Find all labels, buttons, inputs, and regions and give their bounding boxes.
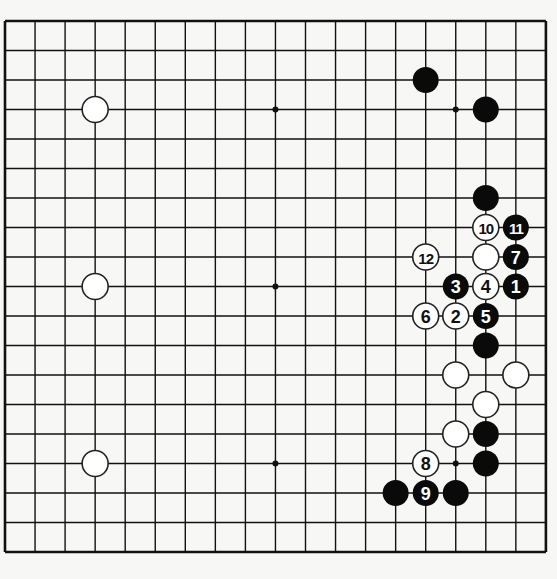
black-stone[interactable] [413,67,439,93]
move-number-label: 8 [421,454,431,474]
black-stone-icon [473,451,499,477]
black-stone-icon [473,333,499,359]
black-stone-icon [383,480,409,506]
black-stone[interactable] [383,480,409,506]
white-stone[interactable]: 2 [443,303,469,329]
white-stone-icon [473,244,499,270]
white-stone-icon [473,392,499,418]
white-stone[interactable]: 4 [473,274,499,300]
move-number-label: 12 [418,250,433,267]
black-stone-icon [443,480,469,506]
white-stone[interactable]: 6 [413,303,439,329]
white-stone[interactable] [473,392,499,418]
white-stone[interactable]: 10 [473,215,499,241]
white-stone-icon [443,362,469,388]
move-number-label: 6 [421,307,431,327]
white-stone-icon [82,97,108,123]
white-stone[interactable] [82,451,108,477]
white-stone[interactable]: 8 [413,451,439,477]
white-stone[interactable] [443,362,469,388]
black-stone[interactable] [443,480,469,506]
move-number-label: 9 [421,484,431,504]
white-stone-icon [82,274,108,300]
white-stone[interactable] [503,362,529,388]
black-stone[interactable] [473,97,499,123]
black-stone[interactable]: 7 [503,244,529,270]
black-stone[interactable] [473,421,499,447]
star-point-icon [453,461,459,467]
star-point-icon [272,284,278,290]
black-stone[interactable]: 3 [443,274,469,300]
white-stone[interactable] [82,97,108,123]
star-point-icon [453,107,459,113]
move-number-label: 1 [511,277,521,297]
black-stone-icon [473,421,499,447]
black-stone[interactable] [473,185,499,211]
star-point-icon [272,461,278,467]
white-stone-icon [82,451,108,477]
move-number-label: 7 [511,248,521,268]
black-stone[interactable]: 11 [503,215,529,241]
move-number-label: 10 [478,220,493,237]
black-stone[interactable] [473,451,499,477]
black-stone[interactable]: 1 [503,274,529,300]
white-stone-icon [503,362,529,388]
white-stone-icon [443,421,469,447]
star-point-icon [272,107,278,113]
move-number-label: 5 [481,307,491,327]
white-stone[interactable] [473,244,499,270]
black-stone-icon [473,97,499,123]
black-stone[interactable] [473,333,499,359]
white-stone[interactable]: 12 [413,244,439,270]
move-number-label: 11 [509,220,524,237]
move-number-label: 2 [451,307,461,327]
move-number-label: 3 [451,277,461,297]
white-stone[interactable] [82,274,108,300]
go-board[interactable]: 101112734162589 [0,0,557,579]
black-stone-icon [413,67,439,93]
black-stone[interactable]: 5 [473,303,499,329]
move-number-label: 4 [481,277,491,297]
white-stone[interactable] [443,421,469,447]
black-stone[interactable]: 9 [413,480,439,506]
black-stone-icon [473,185,499,211]
